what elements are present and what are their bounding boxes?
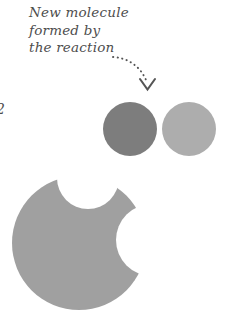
molecule-diagram [0,0,227,318]
illustration-canvas: New molecule formed by the reaction 2 [0,0,227,318]
light-atom-circle [162,102,216,156]
large-molecule-shape [0,0,227,318]
dark-atom-circle [103,102,157,156]
